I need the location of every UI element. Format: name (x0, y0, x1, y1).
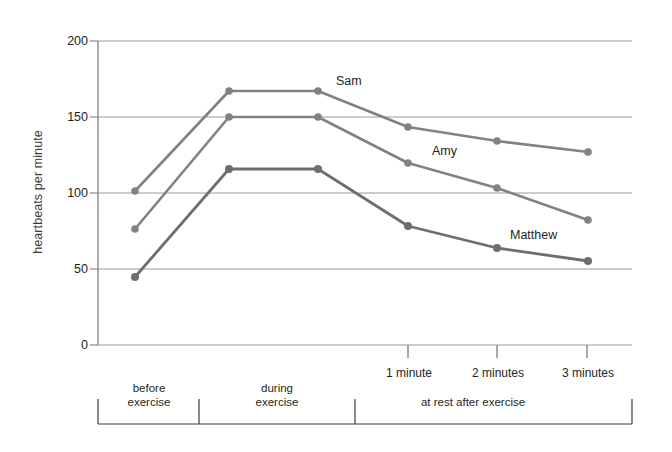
gridlines (98, 41, 632, 345)
x-tick-label-2-minutes: 2 minutes (452, 366, 544, 380)
series-matthew (131, 165, 592, 281)
y-axis-line (90, 41, 98, 345)
x-tick-label-3-minutes: 3 minutes (542, 366, 634, 380)
heart-rate-line-chart: heartbeats per minute 200 150 100 50 0 (0, 0, 672, 452)
phase-label-at-rest: at rest after exercise (400, 395, 546, 409)
phase-label-before-exercise: before exercise (108, 381, 190, 409)
series-amy (131, 113, 592, 233)
series-label-matthew: Matthew (510, 228, 557, 242)
series-label-sam: Sam (336, 74, 362, 88)
series-sam (131, 87, 592, 195)
series-label-amy: Amy (432, 144, 457, 158)
x-axis-ticks (408, 345, 587, 358)
plot-area (0, 0, 672, 452)
phase-label-during-exercise: during exercise (236, 381, 318, 409)
x-tick-label-1-minute: 1 minute (368, 366, 450, 380)
